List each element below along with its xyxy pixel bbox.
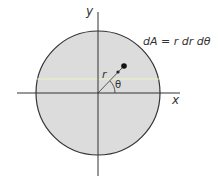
angle-label: θ	[115, 79, 121, 90]
area-element-equation: dA = r dr dθ	[143, 35, 211, 48]
x-axis-label: x	[171, 93, 180, 107]
area-element-point	[121, 63, 127, 69]
polar-area-diagram: y x r θ dA = r dr dθ	[0, 0, 213, 184]
y-axis-label: y	[85, 4, 94, 18]
inner-point	[116, 70, 119, 73]
